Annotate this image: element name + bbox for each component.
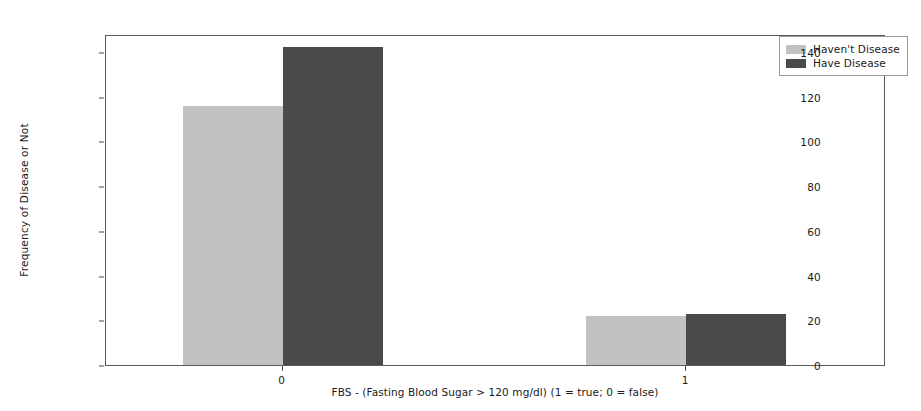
- y-axis-tick-mark: [99, 231, 104, 232]
- x-axis-tick-label: 1: [682, 374, 689, 386]
- legend-swatch-icon: [786, 59, 806, 68]
- x-axis-tick-mark: [282, 366, 283, 371]
- x-axis-label: FBS - (Fasting Blood Sugar > 120 mg/dl) …: [332, 386, 659, 398]
- bar-havent-disease-fbs-1: [586, 316, 686, 365]
- y-axis-tick-label: 140: [779, 47, 821, 59]
- plot-area: [105, 35, 885, 366]
- y-axis-tick-label: 80: [779, 181, 821, 193]
- y-axis-tick-label: 40: [779, 271, 821, 283]
- y-axis-tick-mark: [99, 187, 104, 188]
- y-axis-tick-mark: [99, 52, 104, 53]
- legend-label: Haven't Disease: [813, 43, 900, 55]
- y-axis-tick-label: 60: [779, 226, 821, 238]
- bar-have-disease-fbs-1: [686, 314, 786, 365]
- y-axis-tick-mark: [99, 142, 104, 143]
- y-axis-label: Frequency of Disease or Not: [18, 123, 30, 277]
- y-axis-tick-label: 20: [779, 315, 821, 327]
- legend-label: Have Disease: [813, 57, 886, 69]
- x-axis-tick-label: 0: [278, 374, 285, 386]
- bar-havent-disease-fbs-0: [183, 106, 283, 365]
- y-axis-tick-label: 120: [779, 92, 821, 104]
- y-axis-tick-mark: [99, 276, 104, 277]
- bar-have-disease-fbs-0: [283, 47, 383, 365]
- y-axis-tick-mark: [99, 321, 104, 322]
- y-axis-tick-label: 100: [779, 136, 821, 148]
- y-axis-tick-label: 0: [779, 360, 821, 372]
- bar-chart-figure: Frequency of Disease or Not FBS - (Fasti…: [0, 0, 921, 411]
- bars-layer: [106, 36, 884, 365]
- x-axis-tick-mark: [685, 366, 686, 371]
- y-axis-tick-mark: [99, 97, 104, 98]
- y-axis-tick-mark: [99, 366, 104, 367]
